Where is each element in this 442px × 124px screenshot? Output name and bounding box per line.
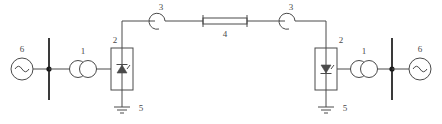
transformer-winding-secondary-right [361, 61, 378, 78]
label-breaker-right: 3 [289, 2, 294, 12]
hvdc-single-line-diagram: 6 1 2 [0, 0, 442, 124]
ground-right: 5 [318, 103, 348, 113]
converter-transformer-right: 1 [351, 46, 378, 77]
diagram-canvas: 6 1 2 [0, 0, 442, 124]
converter-transformer-left: 1 [70, 46, 97, 77]
ac-source-right: 6 [409, 44, 431, 80]
label-dc-line: 4 [223, 29, 228, 39]
converter-valve-right: 2 [315, 35, 343, 90]
label-breaker-left: 3 [159, 2, 164, 12]
dc-line-icon [203, 18, 247, 24]
label-ac-source-left: 6 [20, 44, 25, 54]
dc-breaker-right: 3 [279, 2, 295, 29]
label-converter-right: 2 [339, 35, 344, 45]
label-transformer-right: 1 [362, 46, 367, 56]
label-converter-left: 2 [113, 35, 118, 45]
ac-source-left: 6 [11, 44, 33, 80]
wire-breaker-to-converter-right [295, 21, 326, 48]
ground-left: 5 [114, 103, 144, 113]
dc-breaker-left: 3 [149, 2, 165, 29]
label-ac-source-right: 6 [418, 44, 423, 54]
label-ground-right: 5 [343, 103, 348, 113]
label-transformer-left: 1 [81, 46, 86, 56]
label-ground-left: 5 [139, 103, 144, 113]
transformer-winding-secondary-left [80, 61, 97, 78]
dc-transmission-line: 4 [203, 15, 247, 39]
